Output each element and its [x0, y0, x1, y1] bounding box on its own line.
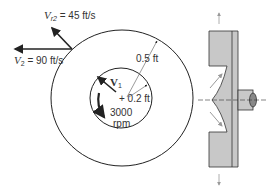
rotation-arrow — [98, 93, 104, 117]
vr2-subscript: r2 — [51, 15, 57, 22]
speed-value: 3000 — [110, 108, 132, 118]
v2-value: = 90 ft/s — [27, 55, 63, 66]
vr2-arrow — [52, 28, 72, 49]
v1-symbol: V — [110, 76, 118, 88]
vr2-value: = 45 ft/s — [60, 10, 96, 21]
v1-subscript: 1 — [118, 82, 122, 89]
speed-unit: rpm — [113, 119, 130, 129]
side-view-impeller — [198, 13, 266, 185]
v2-symbol: V — [14, 54, 21, 66]
vr2-label: Vr2 = 45 ft/s — [44, 10, 96, 24]
outer-radius-label: 0.5 ft — [136, 54, 158, 64]
v1-label: V1 — [110, 77, 122, 91]
v2-subscript: 2 — [21, 60, 25, 67]
v2-label: V2 = 90 ft/s — [14, 55, 63, 69]
inner-radius-label: + 0.2 ft — [119, 94, 150, 104]
vr2-symbol: V — [44, 9, 51, 21]
